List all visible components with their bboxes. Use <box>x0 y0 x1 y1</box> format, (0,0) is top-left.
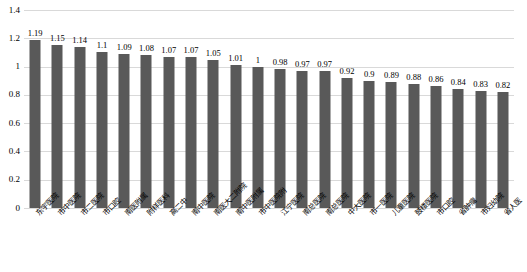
y-axis-tick-label: 0.8 <box>9 90 20 99</box>
y-axis-tick-label: 0 <box>16 204 21 213</box>
y-axis-tick-label: 0.4 <box>9 147 20 156</box>
y-axis-tick-labels: 1.41.210.80.60.40.20 <box>0 0 24 272</box>
bar-slot: 1.05 <box>202 0 224 208</box>
bar-slot: 0.97 <box>291 0 313 208</box>
category-label-slot: 市中医院附 <box>247 208 269 272</box>
bar-value-label: 1.05 <box>206 49 221 58</box>
category-label-slot: 鼓楼医院 <box>403 208 425 272</box>
bar-value-label: 0.84 <box>451 78 466 87</box>
bar-slot: 0.86 <box>425 0 447 208</box>
bars-layer: 1.191.151.141.11.091.081.071.071.051.011… <box>24 0 514 208</box>
bar-slot: 1.09 <box>113 0 135 208</box>
category-label-slot: 市二医院 <box>69 208 91 272</box>
bar-slot: 0.84 <box>447 0 469 208</box>
bar-value-label: 1.19 <box>28 29 43 38</box>
bar[interactable] <box>119 54 130 208</box>
category-label-slot: 南医附属 <box>113 208 135 272</box>
bar[interactable] <box>30 40 41 208</box>
bar-slot: 1.07 <box>180 0 202 208</box>
category-label-slot: 中大医院 <box>336 208 358 272</box>
bar[interactable] <box>163 57 174 208</box>
category-label-slot: 高二中 <box>158 208 180 272</box>
category-label-slot: 南总医院 <box>291 208 313 272</box>
bar-slot: 0.98 <box>269 0 291 208</box>
category-label-slot: 市妇幼院 <box>469 208 491 272</box>
bar-slot: 1.07 <box>158 0 180 208</box>
bar[interactable] <box>186 57 197 208</box>
category-label-slot: 江宁医院 <box>269 208 291 272</box>
bar[interactable] <box>52 45 63 208</box>
bar[interactable] <box>475 91 486 208</box>
y-axis-tick-label: 0.6 <box>9 119 20 128</box>
category-label-slot: 南医大二附院 <box>202 208 224 272</box>
bar-value-label: 1.07 <box>161 46 176 55</box>
bar-slot: 1.01 <box>224 0 246 208</box>
y-axis-tick-label: 1.4 <box>9 6 20 15</box>
category-label-slot: 南总医院 <box>314 208 336 272</box>
bar-slot: 0.89 <box>380 0 402 208</box>
category-label-slot: 市口腔 <box>425 208 447 272</box>
bar-slot: 0.92 <box>336 0 358 208</box>
bar[interactable] <box>386 82 397 208</box>
y-axis-tick-label: 1 <box>16 62 21 71</box>
bar-slot: 1.19 <box>24 0 46 208</box>
category-label-slot: 南中医附属 <box>224 208 246 272</box>
bar[interactable] <box>297 71 308 208</box>
bar-value-label: 0.86 <box>429 75 444 84</box>
bar-slot: 1.08 <box>135 0 157 208</box>
bar-value-label: 1.1 <box>97 41 108 50</box>
category-label-slot: 市中医院 <box>46 208 68 272</box>
bar[interactable] <box>453 89 464 208</box>
bar-value-label: 0.82 <box>495 81 510 90</box>
category-label-slot: 省肿瘤 <box>447 208 469 272</box>
bar-value-label: 1.09 <box>117 43 132 52</box>
bar[interactable] <box>364 81 375 208</box>
bar-slot: 1.14 <box>69 0 91 208</box>
bar[interactable] <box>431 86 442 208</box>
bar-value-label: 1.01 <box>228 54 243 63</box>
bar-value-label: 1.15 <box>50 34 65 43</box>
bar-value-label: 0.98 <box>273 58 288 67</box>
category-label-slot: 附样医科 <box>135 208 157 272</box>
bar-slot: 0.97 <box>314 0 336 208</box>
bar-value-label: 1.14 <box>72 36 87 45</box>
category-label-slot: 东宇医院 <box>24 208 46 272</box>
category-label-slot: 省人医 <box>492 208 514 272</box>
bar-slot: 1.15 <box>46 0 68 208</box>
bar-slot: 0.9 <box>358 0 380 208</box>
bar[interactable] <box>96 52 107 208</box>
bar-slot: 1 <box>247 0 269 208</box>
bar[interactable] <box>341 78 352 208</box>
bar-value-label: 0.89 <box>384 71 399 80</box>
bar-slot: 0.83 <box>469 0 491 208</box>
y-axis-tick-label: 0.2 <box>9 175 20 184</box>
category-label-slot: 市口腔 <box>91 208 113 272</box>
bar-slot: 0.82 <box>492 0 514 208</box>
bar-value-label: 1 <box>256 56 260 65</box>
bar-value-label: 0.88 <box>406 73 421 82</box>
bar[interactable] <box>208 60 219 209</box>
category-label-slot: 儿童医院 <box>380 208 402 272</box>
bar[interactable] <box>74 47 85 208</box>
bar-value-label: 0.83 <box>473 80 488 89</box>
bar-slot: 1.1 <box>91 0 113 208</box>
category-label-slot: 市一医院 <box>358 208 380 272</box>
bar-value-label: 0.92 <box>340 67 355 76</box>
bar-chart: 1.41.210.80.60.40.20 1.191.151.141.11.09… <box>0 0 527 272</box>
bar[interactable] <box>408 84 419 208</box>
bar-value-label: 0.97 <box>317 60 332 69</box>
category-label-slot: 南中医院 <box>180 208 202 272</box>
bar-value-label: 1.07 <box>184 46 199 55</box>
category-labels-layer: 东宇医院市中医院市二医院市口腔南医附属附样医科高二中南中医院南医大二附院南中医附… <box>24 208 514 272</box>
bar[interactable] <box>141 55 152 208</box>
bar-value-label: 1.08 <box>139 44 154 53</box>
bar[interactable] <box>319 71 330 208</box>
bar-value-label: 0.97 <box>295 60 310 69</box>
bar-slot: 0.88 <box>403 0 425 208</box>
y-axis-tick-label: 1.2 <box>9 34 20 43</box>
bar-value-label: 0.9 <box>364 70 375 79</box>
